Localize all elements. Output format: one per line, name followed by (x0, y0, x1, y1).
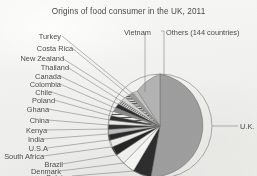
leader-line-china (48, 120, 108, 125)
pie-label-india: India (28, 135, 44, 144)
leader-line-ghana (48, 109, 110, 120)
leader-line-brazil (62, 155, 116, 164)
pie-chart-figure: Origins of food consumer in the UK, 2011 (0, 0, 257, 176)
leader-line-canada (60, 76, 118, 104)
pie-slices-group (108, 74, 212, 176)
pie-label-south-africa: South Africa (4, 152, 44, 161)
leader-line-colombia (60, 84, 115, 108)
pie-label-new-zealand: New Zealand (20, 54, 64, 63)
pie-label-others: Others (144 countries) (166, 28, 240, 37)
pie-label-uk: U.K. (240, 122, 254, 131)
pie-label-kenya: Kenya (26, 126, 47, 135)
leader-line-belgium (72, 171, 134, 176)
leader-line-usa (47, 140, 109, 148)
pie-label-poland: Poland (32, 96, 55, 105)
pie-label-vietnam: Vietnam (124, 28, 151, 37)
leader-line-india (43, 134, 108, 139)
leader-line-kenya (46, 129, 108, 130)
leader-line-denmark (60, 163, 124, 171)
pie-label-costa-rica: Costa Rica (37, 44, 73, 53)
pie-label-china: China (30, 116, 49, 125)
pie-label-thailand: Thailand (41, 63, 69, 72)
leader-line-others (161, 31, 164, 34)
pie-label-turkey: Turkey (39, 32, 61, 41)
leader-line-thailand (67, 67, 121, 101)
pie-label-belgium: Belgium (46, 173, 73, 176)
pie-label-ghana: Ghana (27, 105, 49, 114)
leader-line-south-africa (43, 147, 111, 156)
